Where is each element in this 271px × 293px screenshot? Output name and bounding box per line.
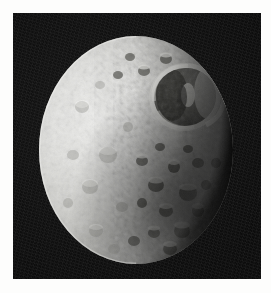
- moon-image: [38, 35, 234, 265]
- figure-container: Grayscale spacecraft image of Saturn's m…: [0, 0, 271, 293]
- body-grain: [38, 35, 234, 265]
- sky-plate: [13, 13, 261, 279]
- mimas-disk-svg: [38, 35, 234, 265]
